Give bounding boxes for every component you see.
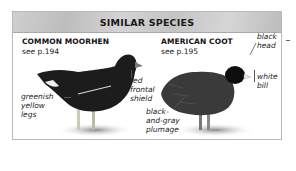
coot-name: AMERICAN COOT (161, 37, 233, 46)
margin-tick (286, 40, 290, 41)
label-greenish-yellow-legs: greenish yellow legs (21, 92, 54, 119)
label-white-bill: white bill (257, 72, 278, 90)
label-text: greenish yellow legs (21, 92, 54, 119)
white-bill-leader (254, 70, 255, 82)
label-red-frontal-shield: red frontal shield (130, 76, 155, 103)
label-black-head: black head (257, 32, 277, 50)
panel-header: SIMILAR SPECIES (13, 12, 281, 33)
similar-species-panel: SIMILAR SPECIES COMMON MOORHEN see p.194… (12, 11, 282, 140)
label-text: white bill (257, 72, 278, 90)
label-text: black head (257, 32, 277, 50)
black-head-leader (248, 42, 258, 56)
moorhen-name: COMMON MOORHEN (22, 37, 109, 46)
label-black-and-gray-plumage: black- and-gray plumage (146, 107, 180, 134)
label-text: black- and-gray plumage (146, 107, 180, 134)
legs-leader (64, 97, 71, 98)
label-text: red frontal shield (130, 76, 155, 103)
panel-title: SIMILAR SPECIES (100, 17, 195, 28)
coot-page-ref: see p.195 (161, 47, 198, 56)
